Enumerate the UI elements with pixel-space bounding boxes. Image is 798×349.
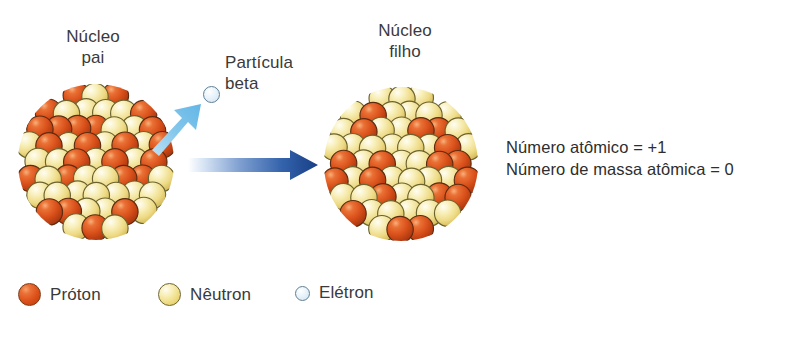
transformation-arrow-icon <box>188 150 318 180</box>
legend-item-proton: Próton <box>18 283 101 306</box>
parent-nucleus-spheres <box>16 79 176 245</box>
proton-sphere-icon <box>18 283 41 306</box>
neutron-sphere-icon <box>158 283 181 306</box>
daughter-nucleus-label: Núcleo filho <box>345 20 465 62</box>
legend-label-neutron: Nêutron <box>190 285 251 305</box>
legend: Próton Nêutron Elétron <box>0 283 798 323</box>
legend-label-proton: Próton <box>50 285 101 305</box>
electron-circle-icon <box>295 286 310 301</box>
electron-circle-icon <box>203 86 220 103</box>
legend-item-neutron: Nêutron <box>158 283 251 306</box>
legend-item-electron: Elétron <box>295 283 374 303</box>
daughter-nucleus-spheres <box>321 81 481 247</box>
mass-number-annotation: Número de massa atômica = 0 <box>506 158 796 180</box>
parent-nucleus-label: Núcleo pai <box>33 26 153 68</box>
parent-nucleus <box>16 79 176 245</box>
decay-annotations: Número atômico = +1 Número de massa atôm… <box>506 136 796 180</box>
atomic-number-annotation: Número atômico = +1 <box>506 136 796 158</box>
beta-decay-diagram: Núcleo pai Partícula beta Núcleo filho <box>0 0 798 349</box>
legend-label-electron: Elétron <box>319 283 374 303</box>
beta-particle-label: Partícula beta <box>225 52 335 94</box>
daughter-nucleus <box>321 81 481 247</box>
